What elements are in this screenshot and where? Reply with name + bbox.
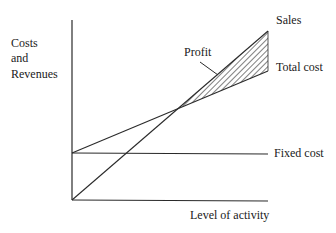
profit-leader-line	[200, 62, 218, 75]
fixed-cost-line	[72, 153, 268, 154]
total-cost-line	[72, 71, 268, 153]
break-even-chart: Costs and Revenues Sales Total cost Fixe…	[0, 0, 336, 233]
x-axis-label: Level of activity	[190, 208, 269, 222]
profit-label: Profit	[184, 45, 212, 59]
sales-line	[72, 31, 268, 200]
sales-label: Sales	[276, 13, 302, 27]
y-axis-label-line2: and	[11, 51, 28, 65]
x-axis	[72, 200, 268, 201]
total-cost-label: Total cost	[276, 60, 323, 74]
y-axis-label-line3: Revenues	[11, 67, 58, 81]
y-axis-label-line1: Costs	[11, 36, 38, 50]
fixed-cost-label: Fixed cost	[274, 146, 324, 160]
